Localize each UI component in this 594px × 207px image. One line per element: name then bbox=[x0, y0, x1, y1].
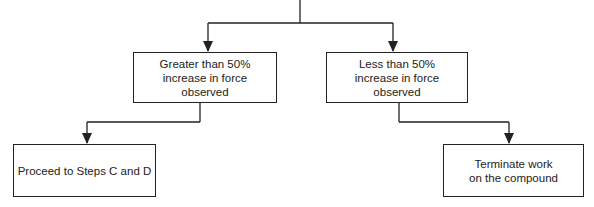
node-label: Less than 50% increase in force observed bbox=[355, 57, 439, 99]
arrowhead-down-icon bbox=[203, 41, 213, 52]
node-label: Greater than 50% increase in force obser… bbox=[160, 57, 251, 99]
node-label: Terminate work on the compound bbox=[469, 157, 558, 185]
arrowhead-down-icon bbox=[82, 133, 92, 144]
arrowhead-down-icon bbox=[388, 41, 398, 52]
node-terminate-work: Terminate work on the compound bbox=[443, 144, 584, 197]
node-label: Proceed to Steps C and D bbox=[18, 164, 152, 178]
arrowhead-down-icon bbox=[504, 133, 514, 144]
flowchart: Greater than 50% increase in force obser… bbox=[0, 0, 594, 207]
node-proceed-steps: Proceed to Steps C and D bbox=[13, 144, 156, 197]
node-greater-than-50: Greater than 50% increase in force obser… bbox=[133, 52, 277, 103]
node-less-than-50: Less than 50% increase in force observed bbox=[326, 52, 468, 103]
